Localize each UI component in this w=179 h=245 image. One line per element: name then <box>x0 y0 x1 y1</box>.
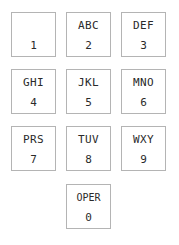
key-letters: PRS <box>23 133 44 146</box>
key-letters: DEF <box>133 19 154 32</box>
key-digit: 0 <box>85 211 92 224</box>
telephone-keypad: 1ABC2DEF3GHI4JKL5MNO6PRS7TUV8WXY9OPER0 <box>0 0 179 245</box>
key-digit: 8 <box>85 153 92 166</box>
key-letters: ABC <box>78 19 99 32</box>
key-digit: 2 <box>85 39 92 52</box>
key-digit: 4 <box>30 96 37 109</box>
key-3[interactable]: DEF3 <box>121 12 166 57</box>
key-9[interactable]: WXY9 <box>121 126 166 171</box>
key-6[interactable]: MNO6 <box>121 69 166 114</box>
key-5[interactable]: JKL5 <box>66 69 111 114</box>
key-0[interactable]: OPER0 <box>66 184 111 229</box>
key-digit: 9 <box>140 153 147 166</box>
key-digit: 6 <box>140 96 147 109</box>
key-digit: 1 <box>30 39 37 52</box>
key-letters: GHI <box>23 76 44 89</box>
key-letters: JKL <box>78 76 99 89</box>
key-8[interactable]: TUV8 <box>66 126 111 171</box>
key-1[interactable]: 1 <box>11 12 56 57</box>
key-2[interactable]: ABC2 <box>66 12 111 57</box>
key-letters: WXY <box>133 133 154 146</box>
key-7[interactable]: PRS7 <box>11 126 56 171</box>
key-4[interactable]: GHI4 <box>11 69 56 114</box>
key-digit: 7 <box>30 153 37 166</box>
key-digit: 5 <box>85 96 92 109</box>
key-letters: OPER <box>76 191 100 204</box>
key-letters: TUV <box>78 133 99 146</box>
key-digit: 3 <box>140 39 147 52</box>
key-letters: MNO <box>133 76 154 89</box>
